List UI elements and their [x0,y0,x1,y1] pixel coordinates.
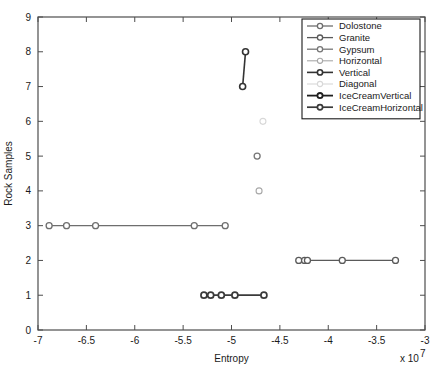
data-point [93,223,99,229]
series-icecreamhorizontal [201,292,267,298]
legend-marker-0 [317,23,322,28]
series-horizontal [256,188,262,194]
legend-label-3: Horizontal [339,55,382,66]
legend-marker-7 [317,105,322,110]
data-point [296,257,302,263]
data-point [222,223,228,229]
data-point [261,292,267,298]
data-point [260,118,266,124]
series-vertical [240,49,249,90]
legend-marker-4 [317,70,322,75]
legend-marker-5 [317,81,322,86]
legend-label-6: IceCreamVertical [339,90,411,101]
legend-marker-2 [317,47,322,52]
data-point [232,292,238,298]
series-granite [296,257,399,263]
series-dolostone [46,223,228,229]
series-diagonal [260,118,266,124]
series-line-4 [243,52,246,87]
x-tick-label-7: -3.5 [368,335,386,346]
y-tick-label-4: 4 [25,185,31,196]
data-point [191,223,197,229]
x-tick-label-2: -6 [130,335,139,346]
x-axis-exponent-value: 7 [420,348,426,359]
y-tick-label-7: 7 [25,81,31,92]
legend-label-2: Gypsum [339,44,374,55]
data-point [64,223,70,229]
legend-marker-6 [317,93,322,98]
data-point [201,292,207,298]
legend-marker-3 [317,58,322,63]
data-point [218,292,224,298]
legend: DolostoneGraniteGypsumHorizontalVertical… [302,19,423,119]
y-tick-label-6: 6 [25,116,31,127]
x-tick-label-0: -7 [34,335,43,346]
data-point [240,84,246,90]
x-tick-label-8: -3 [421,335,430,346]
data-point [254,153,260,159]
chart-figure: -7-6.5-6-5.5-5-4.5-4-3.5-30123456789Entr… [0,0,446,378]
legend-marker-1 [317,35,322,40]
y-tick-label-8: 8 [25,46,31,57]
y-tick-label-1: 1 [25,290,31,301]
legend-label-0: Dolostone [339,20,382,31]
x-tick-label-4: -5 [227,335,236,346]
series-gypsum [254,153,260,159]
scatter-plot-canvas: -7-6.5-6-5.5-5-4.5-4-3.5-30123456789Entr… [0,0,446,378]
y-tick-label-0: 0 [25,325,31,336]
y-tick-label-3: 3 [25,220,31,231]
x-tick-label-1: -6.5 [78,335,96,346]
x-tick-label-5: -4.5 [271,335,289,346]
data-point [243,49,249,55]
y-axis-label: Rock Samples [3,141,14,205]
x-tick-label-6: -4 [324,335,333,346]
legend-label-5: Diagonal [339,78,377,89]
y-tick-label-9: 9 [25,12,31,23]
legend-label-1: Granite [339,32,370,43]
data-point [46,223,52,229]
data-point [304,257,310,263]
legend-label-7: IceCreamHorizontal [339,102,423,113]
x-tick-label-3: -5.5 [175,335,193,346]
data-point [392,257,398,263]
legend-label-4: Vertical [339,67,370,78]
x-axis-exponent: x 10 [400,353,419,364]
data-point [339,257,345,263]
data-point [208,292,214,298]
data-point [256,188,262,194]
y-tick-label-5: 5 [25,151,31,162]
y-tick-label-2: 2 [25,255,31,266]
x-axis-label: Entropy [214,353,248,364]
